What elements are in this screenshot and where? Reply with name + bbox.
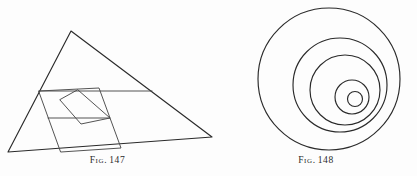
figure-147-caption: Fig.147 <box>0 155 215 165</box>
figure-148-canvas <box>215 0 417 176</box>
figure-148: Fig.148 <box>215 0 417 176</box>
figure-147-caption-word: Fig. <box>90 155 107 165</box>
figure-148-caption-word: Fig. <box>298 155 315 165</box>
figure-plate: Fig.147 Fig.148 <box>0 0 417 176</box>
figure-148-caption: Fig.148 <box>215 155 417 165</box>
triangle-outline <box>8 31 212 152</box>
figure-147-canvas <box>0 0 215 176</box>
figure-148-caption-number: 148 <box>318 155 334 165</box>
circle-4 <box>335 80 369 114</box>
inner-square <box>60 90 110 124</box>
inscribed-square <box>39 88 121 152</box>
figure-147-caption-number: 147 <box>109 155 125 165</box>
figure-147: Fig.147 <box>0 0 215 176</box>
circle-3 <box>310 55 380 125</box>
circle-5-inner <box>348 92 363 107</box>
